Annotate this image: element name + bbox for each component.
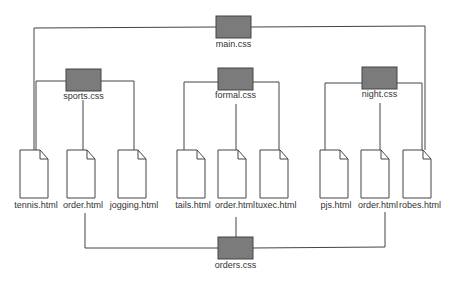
orders-css-node[interactable]: orders.css xyxy=(215,237,257,270)
page-label: tails.html xyxy=(175,200,211,210)
page-label: robes.html xyxy=(399,200,441,210)
formal-css-label: formal.css xyxy=(215,90,257,100)
main-to-tennis-line xyxy=(34,27,216,150)
stylesheet-icon xyxy=(218,237,253,259)
page-order-night[interactable]: order.html xyxy=(358,150,398,210)
page-pjs[interactable]: pjs.html xyxy=(320,150,352,210)
sports-css-label: sports.css xyxy=(63,91,104,101)
page-label: jogging.html xyxy=(109,200,159,210)
page-robes[interactable]: robes.html xyxy=(399,150,441,210)
page-jogging[interactable]: jogging.html xyxy=(109,150,159,210)
html-file-icon xyxy=(20,150,48,198)
stylesheet-icon xyxy=(66,69,101,91)
page-order-sports[interactable]: order.html xyxy=(63,150,103,210)
page-order-formal[interactable]: order.html xyxy=(215,150,255,210)
html-file-icon xyxy=(118,150,146,198)
orders-css-label: orders.css xyxy=(215,260,257,270)
main-css-label: main.css xyxy=(216,39,252,49)
night-css-node[interactable]: night.css xyxy=(362,67,398,99)
page-label: tennis.html xyxy=(14,200,58,210)
page-label: order.html xyxy=(215,200,255,210)
page-tails[interactable]: tails.html xyxy=(175,150,211,210)
page-label: order.html xyxy=(63,200,103,210)
html-file-icon xyxy=(177,150,205,198)
formal-css-node[interactable]: formal.css xyxy=(215,68,257,100)
night-css-label: night.css xyxy=(362,89,398,99)
page-label: tuxec.html xyxy=(255,200,296,210)
html-file-icon xyxy=(320,150,348,198)
stylesheet-icon xyxy=(218,68,253,90)
page-label: order.html xyxy=(358,200,398,210)
diagram-canvas: main.css sports.css formal.css night.css… xyxy=(0,0,462,282)
sports-css-node[interactable]: sports.css xyxy=(63,69,104,101)
stylesheet-icon xyxy=(216,16,251,38)
html-file-icon xyxy=(403,150,431,198)
stylesheet-icon xyxy=(362,67,397,89)
html-file-icon xyxy=(218,150,246,198)
page-label: pjs.html xyxy=(320,200,351,210)
main-to-robes-line xyxy=(251,26,425,150)
html-file-icon xyxy=(67,150,95,198)
page-tennis[interactable]: tennis.html xyxy=(14,150,58,210)
html-file-icon xyxy=(361,150,389,198)
page-tuxec[interactable]: tuxec.html xyxy=(255,150,296,210)
html-file-icon xyxy=(260,150,288,198)
main-css-node[interactable]: main.css xyxy=(216,16,252,49)
